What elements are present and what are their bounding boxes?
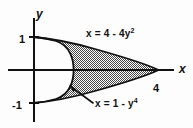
upper-curve-exponent: 2 bbox=[131, 27, 135, 34]
x-axis-label: x bbox=[179, 63, 186, 75]
lower-curve-equation-label: x = 1 - y4 bbox=[95, 99, 138, 109]
y-tick-label-1: 1 bbox=[19, 34, 25, 45]
lower-curve-exponent: 4 bbox=[134, 97, 138, 104]
graph-figure: y x 1 -1 4 x = 4 - 4y2 x = 1 - y4 bbox=[0, 0, 193, 128]
upper-curve-equation-label: x = 4 - 4y2 bbox=[86, 29, 135, 39]
x-tick-label-4: 4 bbox=[153, 83, 159, 94]
y-axis-label: y bbox=[36, 8, 43, 20]
upper-curve-equation-text: x = 4 - 4y bbox=[86, 28, 131, 39]
lower-curve-equation-text: x = 1 - y bbox=[95, 98, 134, 109]
y-tick-label-negative-1: -1 bbox=[12, 100, 22, 111]
